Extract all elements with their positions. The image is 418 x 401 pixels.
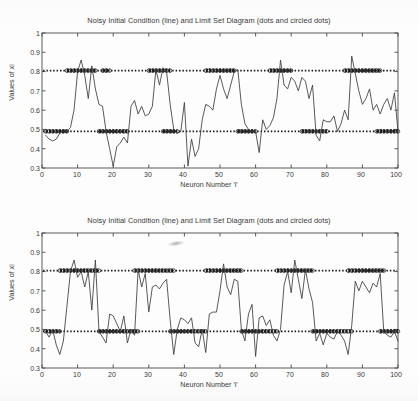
chart-panel-top: Noisy Initial Condition (line) and Limit… (0, 0, 418, 200)
figure-canvas: Noisy Initial Condition (line) and Limit… (0, 0, 418, 401)
chart-panel-bottom: Noisy Initial Condition (line) and Limit… (0, 200, 418, 400)
plot-area (0, 200, 418, 400)
plot-area (0, 0, 418, 200)
